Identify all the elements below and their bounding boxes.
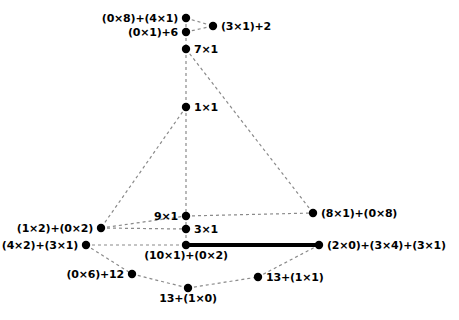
edge-dashed [132, 274, 188, 288]
node-label: 1×1 [194, 102, 218, 113]
graph-node[interactable] [309, 209, 317, 217]
node-label: (10×1)+(0×2) [144, 250, 228, 261]
node-label: (2×0)+(3×4)+(3×1) [327, 240, 446, 251]
node-label: 9×1 [154, 211, 178, 222]
graph-node[interactable] [315, 241, 323, 249]
graph-node[interactable] [128, 270, 136, 278]
node-label: (0×6)+12 [66, 269, 124, 280]
graph-node[interactable] [182, 45, 190, 53]
node-label: 13+(1×1) [266, 272, 324, 283]
graph-node[interactable] [209, 22, 217, 30]
node-label: 3×1 [194, 224, 218, 235]
graph-node[interactable] [182, 28, 190, 36]
graph-node[interactable] [254, 273, 262, 281]
diagram-canvas: (0×8)+(4×1)(3×1)+2(0×1)+67×11×19×1(8×1)+… [0, 0, 459, 320]
edge-dashed [186, 18, 213, 26]
graph-node[interactable] [182, 225, 190, 233]
edge-layer [86, 18, 319, 288]
edge-dashed [101, 228, 186, 229]
node-label: (4×2)+(3×1) [2, 240, 78, 251]
graph-node[interactable] [182, 14, 190, 22]
graph-node[interactable] [184, 284, 192, 292]
node-label: (8×1)+(0×8) [321, 208, 397, 219]
graph-node[interactable] [182, 241, 190, 249]
edge-dashed [186, 213, 313, 216]
node-label: 7×1 [194, 44, 218, 55]
node-label: 13+(1×0) [159, 293, 217, 304]
graph-node[interactable] [182, 103, 190, 111]
graph-node[interactable] [82, 241, 90, 249]
node-label: (0×8)+(4×1) [102, 13, 178, 24]
node-label: (0×1)+6 [128, 27, 178, 38]
edge-dashed [188, 277, 258, 288]
graph-node[interactable] [97, 224, 105, 232]
node-label: (3×1)+2 [221, 21, 271, 32]
edge-dashed [186, 49, 313, 213]
graph-node[interactable] [182, 212, 190, 220]
node-label: (1×2)+(0×2) [17, 223, 93, 234]
